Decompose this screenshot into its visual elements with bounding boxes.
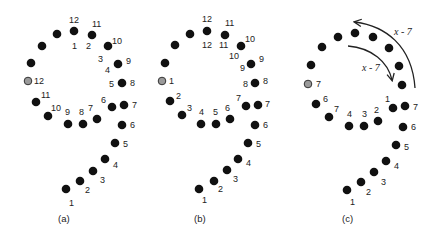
- dot: [186, 30, 195, 39]
- label: 4: [394, 161, 399, 171]
- dot: [120, 101, 129, 110]
- dot: [357, 178, 366, 187]
- dot: [223, 166, 232, 175]
- dot: [178, 111, 187, 120]
- label: 2: [176, 91, 181, 101]
- label: 3: [187, 103, 192, 113]
- label: 4: [246, 158, 251, 168]
- dot: [382, 157, 391, 166]
- label: 11: [225, 18, 234, 28]
- dot: [395, 62, 404, 71]
- dot: [64, 120, 73, 129]
- dot: [118, 121, 127, 130]
- label: 12: [202, 14, 212, 24]
- label: 9: [259, 54, 264, 64]
- label: 8: [263, 76, 268, 86]
- dot: [318, 43, 327, 52]
- dot: [251, 121, 260, 130]
- dot: [345, 122, 354, 131]
- label: 2: [85, 185, 90, 195]
- label: 11: [41, 90, 50, 100]
- dot: [70, 27, 79, 36]
- dot: [76, 177, 85, 186]
- label: 3: [98, 54, 103, 64]
- label: 7: [132, 100, 137, 110]
- dot: [251, 79, 260, 88]
- label: 7: [88, 103, 93, 113]
- label: 1: [202, 195, 207, 205]
- arrow-label: x - 7: [393, 26, 413, 37]
- label: 3: [381, 177, 386, 187]
- label: 6: [225, 103, 230, 113]
- dot: [312, 100, 321, 109]
- label: 9: [240, 63, 245, 73]
- label: 7: [334, 104, 339, 114]
- label: 12: [69, 15, 79, 25]
- label: 10: [112, 36, 122, 46]
- label: 5: [109, 79, 114, 89]
- label: 3: [100, 175, 105, 185]
- dot: [399, 123, 408, 132]
- dot: [53, 30, 62, 39]
- panel-b: 1 12 11 10 9 8 7 12 11 10 9 8 7 2 3 4 5 …: [158, 14, 270, 224]
- dot: [374, 117, 383, 126]
- panel-caption: (c): [342, 213, 353, 224]
- panel-caption: (a): [58, 213, 70, 224]
- dot: [197, 120, 206, 129]
- label: 5: [213, 107, 218, 117]
- dot: [234, 155, 243, 164]
- label: 7: [413, 102, 418, 112]
- dot: [334, 33, 343, 42]
- dot: [93, 115, 102, 124]
- dot: [237, 42, 246, 51]
- dot: [118, 79, 127, 88]
- label: 1: [169, 76, 174, 86]
- dot: [325, 113, 334, 122]
- dot: [370, 168, 379, 177]
- dot: [62, 185, 71, 194]
- label: 4: [105, 65, 110, 75]
- label: 1: [72, 41, 77, 51]
- label: 8: [79, 107, 84, 117]
- dot: [392, 141, 401, 150]
- dot: [111, 139, 120, 148]
- label: 2: [86, 41, 91, 51]
- label: 8: [130, 78, 135, 88]
- dot: [89, 167, 98, 176]
- label: 6: [101, 95, 106, 105]
- panel-a: 12 12 11 10 9 8 7 1 2 3 4 5 6 11 10 9 8 …: [24, 15, 137, 224]
- dot: [389, 104, 398, 113]
- label: 6: [323, 94, 328, 104]
- dot: [88, 31, 97, 40]
- dot: [385, 44, 394, 53]
- dot: [244, 139, 253, 148]
- start-dot: [158, 77, 166, 85]
- dot: [369, 33, 378, 42]
- label: 11: [92, 19, 101, 29]
- label: 7: [265, 99, 270, 109]
- label: 4: [113, 160, 118, 170]
- label: 7: [236, 93, 241, 103]
- dot: [401, 102, 410, 111]
- dot: [114, 60, 123, 69]
- label: 9: [126, 56, 131, 66]
- label: 9: [65, 107, 70, 117]
- dot: [307, 61, 316, 70]
- label: 2: [366, 187, 371, 197]
- dot: [210, 177, 219, 186]
- dot: [351, 29, 360, 38]
- label: 8: [243, 79, 248, 89]
- label: 1: [350, 197, 355, 207]
- label: 2: [374, 105, 379, 115]
- label: 10: [229, 51, 239, 61]
- label: 10: [51, 103, 61, 113]
- panel-caption: (b): [194, 213, 206, 224]
- dot: [166, 97, 175, 106]
- label: 11: [219, 40, 228, 50]
- start-dot: [24, 77, 32, 85]
- dot: [254, 101, 263, 110]
- label: 6: [263, 120, 268, 130]
- label: 5: [256, 139, 261, 149]
- label: 4: [347, 109, 352, 119]
- dot: [32, 98, 41, 107]
